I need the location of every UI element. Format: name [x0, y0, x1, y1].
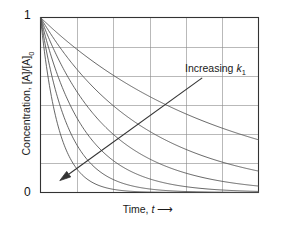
annotation-text: Increasing	[185, 62, 233, 74]
decay-curve	[41, 18, 259, 192]
chart-figure: 1 0 Concentration, [A]/[A]0 Time, t ⟶ In…	[0, 0, 282, 225]
x-axis-label: Time, t ⟶	[40, 203, 255, 216]
y-axis-tick-label-min: 0	[24, 186, 31, 198]
arrow-head-icon	[60, 171, 71, 180]
decay-curve	[41, 18, 259, 193]
x-axis-label-variable: t	[151, 203, 154, 215]
decay-curve	[41, 18, 259, 187]
decay-curves	[41, 18, 259, 193]
y-axis-label-text: Concentration, [A]/[A]	[20, 56, 32, 156]
grid-vertical-lines	[78, 18, 223, 193]
plot-frame	[41, 18, 259, 193]
decay-curve	[41, 18, 259, 140]
increasing-k-arrow	[60, 78, 202, 181]
x-axis-label-text: Time,	[123, 203, 149, 215]
decay-curve	[41, 18, 259, 193]
annotation-increasing-k: Increasing k1	[185, 62, 246, 77]
arrow-shaft	[69, 78, 203, 174]
y-axis-label-subscript: 0	[27, 52, 36, 56]
y-axis-tick-label-max: 1	[24, 9, 31, 21]
y-axis-label: Concentration, [A]/[A]0	[20, 24, 35, 184]
decay-curve	[41, 18, 259, 172]
annotation-subscript: 1	[242, 68, 246, 77]
plot-canvas	[0, 0, 282, 225]
right-arrow-icon: ⟶	[157, 203, 172, 215]
